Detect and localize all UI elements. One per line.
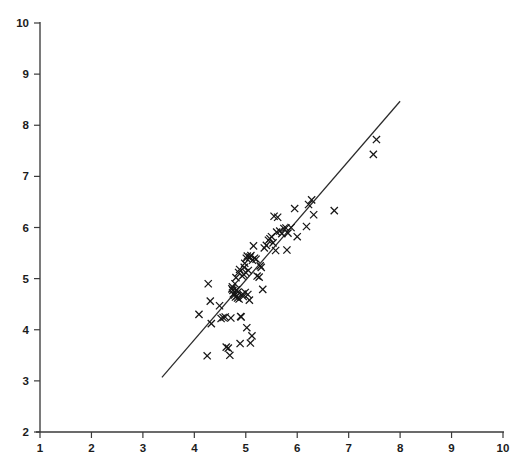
- x-tick-label: 10: [497, 442, 510, 454]
- x-axis-ticks: 12345678910: [37, 432, 510, 454]
- x-tick-label: 1: [37, 442, 44, 454]
- data-point-marker: [308, 196, 315, 203]
- x-tick-label: 4: [191, 442, 198, 454]
- data-point-marker: [216, 302, 223, 309]
- data-point-marker: [195, 311, 202, 318]
- y-tick-label: 3: [23, 375, 29, 387]
- data-point-marker: [291, 205, 298, 212]
- y-tick-label: 7: [23, 170, 29, 182]
- data-point-marker: [204, 352, 211, 359]
- fitted-regression-line: [162, 101, 400, 377]
- data-point-marker: [250, 242, 257, 249]
- data-point-marker: [247, 339, 254, 346]
- data-point-marker: [205, 280, 212, 287]
- data-point-marker: [241, 260, 248, 267]
- x-tick-label: 9: [448, 442, 454, 454]
- data-point-marker: [226, 352, 233, 359]
- data-point-marker: [303, 223, 310, 230]
- data-point-marker: [259, 286, 266, 293]
- data-point-marker: [294, 233, 301, 240]
- x-tick-label: 8: [397, 442, 404, 454]
- data-point-marker: [238, 313, 245, 320]
- y-tick-label: 4: [23, 324, 30, 336]
- y-tick-label: 2: [23, 426, 29, 438]
- data-point-markers: [195, 136, 380, 359]
- y-tick-label: 10: [16, 17, 29, 29]
- x-tick-label: 3: [140, 442, 146, 454]
- data-point-marker: [207, 298, 214, 305]
- scatter-plot-figure: 12345678910 2345678910: [0, 0, 525, 469]
- x-tick-label: 2: [88, 442, 94, 454]
- y-tick-label: 5: [23, 273, 30, 285]
- data-point-marker: [283, 246, 290, 253]
- y-tick-label: 9: [23, 68, 29, 80]
- y-tick-label: 6: [23, 222, 29, 234]
- data-point-marker: [245, 267, 252, 274]
- data-point-marker: [227, 314, 234, 321]
- data-point-marker: [243, 324, 250, 331]
- data-point-marker: [331, 207, 338, 214]
- data-point-marker: [237, 340, 244, 347]
- x-tick-label: 6: [294, 442, 300, 454]
- regression-line: [162, 101, 400, 377]
- data-point-marker: [370, 151, 377, 158]
- data-point-marker: [248, 332, 255, 339]
- data-point-marker: [373, 136, 380, 143]
- axes: [36, 22, 504, 432]
- y-axis-ticks: 2345678910: [16, 17, 40, 438]
- data-point-marker: [310, 211, 317, 218]
- x-tick-label: 5: [243, 442, 250, 454]
- data-point-marker: [272, 247, 279, 254]
- y-tick-label: 8: [23, 119, 30, 131]
- x-tick-label: 7: [345, 442, 351, 454]
- plot-canvas: 12345678910 2345678910: [0, 0, 525, 469]
- data-point-marker: [246, 297, 253, 304]
